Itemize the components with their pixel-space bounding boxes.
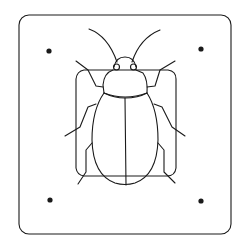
pronotum-base [104,93,147,97]
pin-bottom-right-icon [198,198,203,203]
leg-hind-left [78,143,92,184]
antenna-right [132,30,160,62]
leg-front-right [147,61,175,87]
leg-middle-right [154,104,185,136]
antenna-left [89,29,117,62]
elytra-suture [125,98,126,185]
pin-top-left-icon [46,48,51,53]
leg-front-left [76,61,103,87]
beetle-specimen-card [0,0,245,248]
beetle-pronotum [103,70,147,98]
leg-hind-right [158,143,175,183]
pin-bottom-left-icon [47,197,52,202]
leg-middle-left [65,104,96,136]
pin-top-right-icon [198,46,203,51]
